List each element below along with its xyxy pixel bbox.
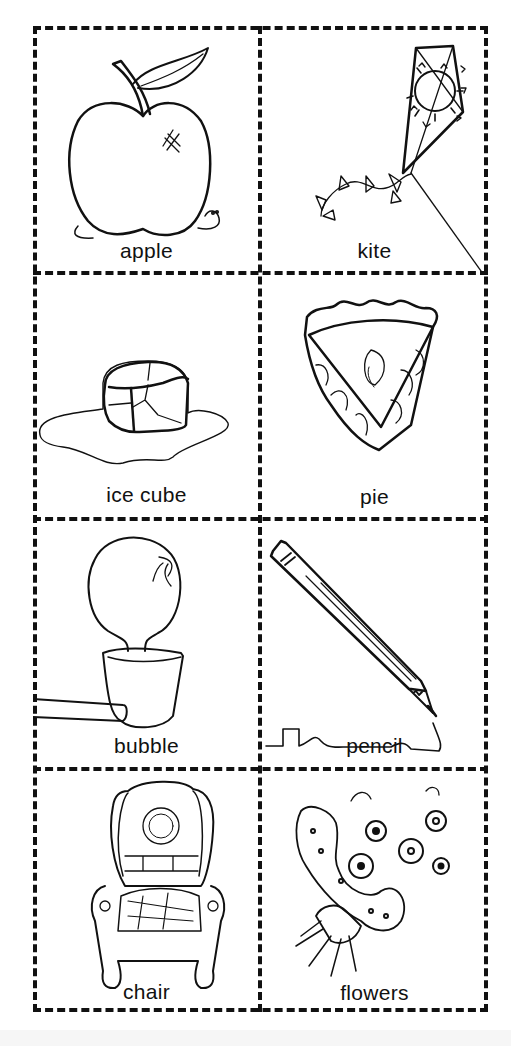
card-chair: chair <box>33 771 260 1012</box>
card-label: ice cube <box>33 483 260 507</box>
chair-icon <box>33 771 260 1012</box>
card-label: kite <box>261 239 488 263</box>
card-label: chair <box>33 980 260 1004</box>
card-label: pie <box>261 485 488 509</box>
card-bubble: bubble <box>33 521 260 767</box>
bubble-pipe-icon <box>33 521 260 767</box>
card-flowers: flowers <box>261 771 488 1012</box>
picture-word-card-sheet: apple kite ice cube <box>33 26 488 1012</box>
card-label: flowers <box>261 981 488 1005</box>
card-pencil: pencil <box>261 521 488 767</box>
card-apple: apple <box>33 26 260 271</box>
kite-icon <box>261 26 488 271</box>
card-label: apple <box>33 239 260 263</box>
card-label: pencil <box>261 734 488 758</box>
apple-icon <box>33 26 260 271</box>
pie-icon <box>261 275 488 517</box>
card-pie: pie <box>261 275 488 517</box>
card-label: bubble <box>33 734 260 758</box>
card-kite: kite <box>261 26 488 271</box>
ice-cube-icon <box>33 275 260 517</box>
flowers-icon <box>261 771 488 1012</box>
card-ice-cube: ice cube <box>33 275 260 517</box>
page-margin <box>0 1030 511 1046</box>
pencil-icon <box>261 521 488 767</box>
